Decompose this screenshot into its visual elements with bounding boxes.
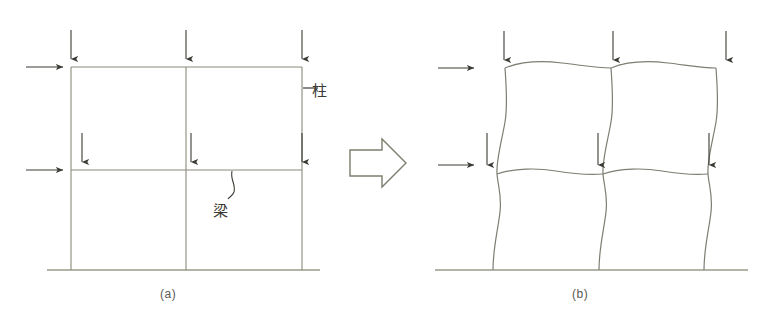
figure-root: 柱 梁 (a) (b)	[0, 0, 782, 317]
column-middle-upper-b	[603, 68, 613, 174]
column-left-b	[493, 174, 501, 270]
column-right-b	[704, 174, 712, 270]
beam-floor-right-b	[603, 169, 708, 174]
panel-caption-a: (a)	[160, 287, 176, 301]
column-annotation-label: 柱	[312, 79, 327, 100]
beam-roof-left-b	[505, 62, 611, 68]
panel-caption-b: (b)	[572, 287, 588, 301]
beam-roof-right-b	[611, 62, 716, 68]
panel-b	[435, 31, 748, 270]
frame-diagram-svg	[0, 0, 782, 317]
beam-annotation-label: 梁	[213, 199, 228, 220]
block-arrow-right-icon	[350, 139, 406, 187]
panel-a	[26, 30, 320, 270]
transition-arrow	[350, 139, 406, 187]
beam-label-leader-a	[228, 171, 234, 199]
column-left-upper-b	[497, 68, 507, 174]
column-middle-b	[599, 174, 607, 270]
beam-floor-left-b	[497, 169, 603, 174]
